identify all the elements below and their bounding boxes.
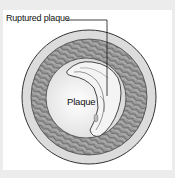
plaque-label: Plaque: [67, 96, 95, 107]
artery-cross-section: [0, 0, 175, 178]
ruptured-plaque-label: Ruptured plaque: [6, 13, 70, 23]
